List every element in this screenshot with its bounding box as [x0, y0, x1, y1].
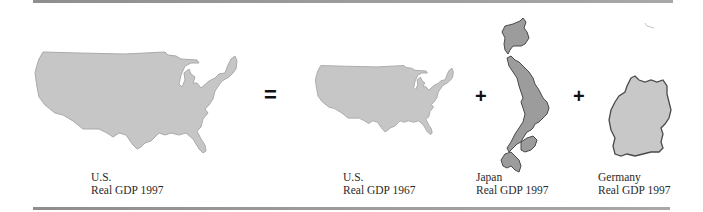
japan-measure: Real GDP 1997 [476, 184, 548, 197]
japan-country: Japan [476, 171, 548, 184]
germany-caption: Germany Real GDP 1997 [598, 171, 670, 197]
germany-country: Germany [598, 171, 670, 184]
plus-sign-1: + [475, 86, 487, 106]
germany-measure: Real GDP 1997 [598, 184, 670, 197]
us-1967-measure: Real GDP 1967 [343, 184, 415, 197]
us-1967-country: U.S. [343, 171, 415, 184]
us-1967-caption: U.S. Real GDP 1967 [343, 171, 415, 197]
us-map-large-icon [33, 47, 238, 155]
us-1997-country: U.S. [91, 171, 163, 184]
us-1997-measure: Real GDP 1997 [91, 184, 163, 197]
us-map-small-icon [314, 62, 454, 136]
scan-artifact [644, 22, 656, 30]
us-1997-caption: U.S. Real GDP 1997 [91, 171, 163, 197]
equals-sign: = [264, 84, 277, 106]
top-rule [33, 0, 673, 3]
japan-caption: Japan Real GDP 1997 [476, 171, 548, 197]
plus-sign-2: + [573, 86, 585, 106]
germany-map-icon [605, 74, 675, 161]
bottom-rule [33, 207, 670, 210]
japan-map-icon [493, 14, 555, 174]
